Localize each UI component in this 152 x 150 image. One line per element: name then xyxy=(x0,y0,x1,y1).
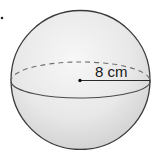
problem-bullet xyxy=(1,17,4,20)
sphere-diagram: 8 cm xyxy=(0,0,152,150)
center-point xyxy=(78,79,81,82)
radius-label: 8 cm xyxy=(95,63,128,80)
